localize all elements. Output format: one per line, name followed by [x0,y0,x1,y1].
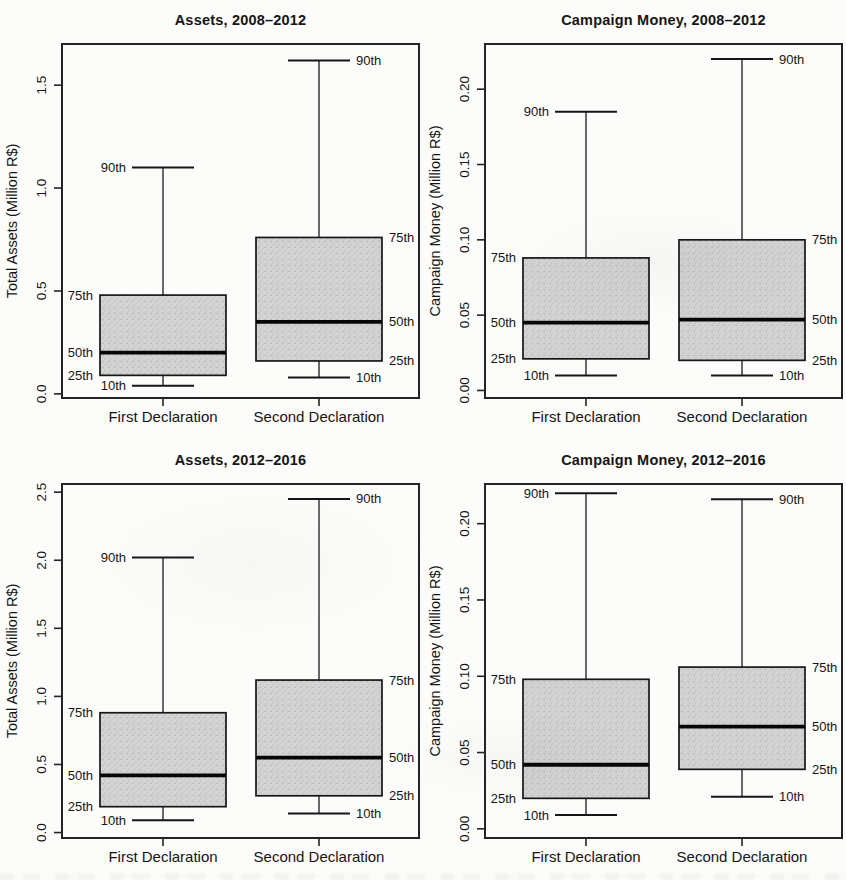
panel-assets-2008-2012: Assets, 2008–2012Total Assets (Million R… [0,0,423,440]
iqr-box [100,713,226,807]
x-category-label: Second Declaration [254,408,385,425]
iqr-box [256,680,382,796]
p50-label: 50th [68,345,93,360]
p90-label: 90th [779,52,804,67]
p90-label: 90th [101,550,126,565]
p10-label: 10th [101,813,126,828]
p50-label: 50th [389,314,414,329]
iqr-box [523,679,649,798]
iqr-box [256,237,382,360]
chart-title: Assets, 2008–2012 [175,12,307,28]
y-tick-label: 0.0 [34,823,49,842]
x-category-label: First Declaration [108,848,217,865]
y-tick-label: 0.05 [457,302,472,328]
y-tick-label: 2.0 [34,551,49,570]
p90-label: 90th [524,104,549,119]
y-tick-label: 0.00 [457,816,472,842]
y-tick-label: 0.00 [457,377,472,403]
y-tick-label: 1.0 [34,687,49,706]
p25-label: 25th [491,791,516,806]
p75-label: 75th [812,660,837,675]
x-category-label: First Declaration [531,848,640,865]
x-category-label: First Declaration [108,408,217,425]
p10-label: 10th [524,368,549,383]
p10-label: 10th [524,808,549,823]
x-category-label: Second Declaration [254,848,385,865]
y-axis-label: Total Assets (Million R$) [4,584,20,739]
y-axis-label: Campaign Money (Million R$) [427,126,443,317]
chart-title: Campaign Money, 2008–2012 [561,12,766,28]
p10-label: 10th [779,789,804,804]
p50-label: 50th [491,757,516,772]
y-axis-label: Campaign Money (Million R$) [427,566,443,757]
panel-campaign-money-2012-2016: Campaign Money, 2012–2016Campaign Money … [423,440,846,880]
p25-label: 25th [491,351,516,366]
y-tick-label: 0.20 [457,511,472,537]
panel-assets-2012-2016: Assets, 2012–2016Total Assets (Million R… [0,440,423,880]
p90-label: 90th [356,491,381,506]
p10-label: 10th [101,378,126,393]
p50-label: 50th [812,312,837,327]
p75-label: 75th [389,673,414,688]
p90-label: 90th [524,486,549,501]
boxplot-figure: Assets, 2008–2012Total Assets (Million R… [0,0,846,880]
iqr-box [523,258,649,359]
p25-label: 25th [812,762,837,777]
p25-label: 25th [389,353,414,368]
y-tick-label: 0.15 [457,151,472,177]
p10-label: 10th [356,370,381,385]
iqr-box [100,295,226,375]
y-tick-label: 0.5 [34,282,49,301]
y-tick-label: 0.20 [457,76,472,102]
p90-label: 90th [779,492,804,507]
p75-label: 75th [68,288,93,303]
p10-label: 10th [356,806,381,821]
p50-label: 50th [812,719,837,734]
p10-label: 10th [779,368,804,383]
y-tick-label: 0.05 [457,739,472,765]
p75-label: 75th [812,232,837,247]
x-category-label: Second Declaration [677,848,808,865]
p90-label: 90th [101,160,126,175]
y-axis-label: Total Assets (Million R$) [4,144,20,299]
p50-label: 50th [389,750,414,765]
p25-label: 25th [389,788,414,803]
y-tick-label: 0.15 [457,587,472,613]
y-tick-label: 1.5 [34,619,49,638]
y-tick-label: 0.5 [34,755,49,774]
p75-label: 75th [389,230,414,245]
y-tick-label: 0.10 [457,663,472,689]
iqr-box [679,667,805,769]
p25-label: 25th [68,368,93,383]
iqr-box [679,240,805,361]
y-tick-label: 1.0 [34,179,49,198]
page-bleed-artifact [0,873,846,880]
y-tick-label: 2.5 [34,483,49,502]
p90-label: 90th [356,53,381,68]
x-category-label: Second Declaration [677,408,808,425]
y-tick-label: 0.10 [457,227,472,253]
p75-label: 75th [491,672,516,687]
p75-label: 75th [491,250,516,265]
p25-label: 25th [812,353,837,368]
y-tick-label: 1.5 [34,76,49,95]
p50-label: 50th [68,768,93,783]
chart-title: Campaign Money, 2012–2016 [561,452,766,468]
panel-campaign-money-2008-2012: Campaign Money, 2008–2012Campaign Money … [423,0,846,440]
p25-label: 25th [68,799,93,814]
p75-label: 75th [68,705,93,720]
p50-label: 50th [491,315,516,330]
chart-title: Assets, 2012–2016 [175,452,307,468]
x-category-label: First Declaration [531,408,640,425]
y-tick-label: 0.0 [34,384,49,403]
